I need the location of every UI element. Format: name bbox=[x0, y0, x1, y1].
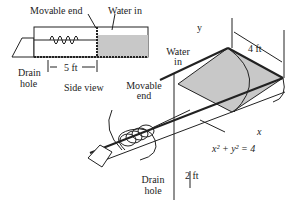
circle-equation: x² + y² = 4 bbox=[212, 143, 255, 154]
x-axis-label: x bbox=[257, 126, 261, 137]
side-length-label: 5 ft bbox=[64, 62, 78, 73]
drain-label-2: hole bbox=[138, 185, 168, 196]
water-in-label-2: in bbox=[166, 56, 190, 67]
width-label: 4 ft bbox=[248, 43, 262, 54]
depth-label: 2 ft bbox=[185, 170, 199, 181]
side-view bbox=[12, 14, 148, 72]
trough-diagram: Movable end Water in Drain hole 5 ft Sid… bbox=[0, 0, 298, 206]
side-movable-end-label: Movable end bbox=[30, 5, 83, 16]
y-axis-label: y bbox=[197, 22, 202, 33]
movable-end-label-2: end bbox=[126, 90, 162, 101]
side-hole-label: hole bbox=[20, 78, 37, 89]
side-water-in-label: Water in bbox=[108, 5, 142, 16]
side-view-caption: Side view bbox=[64, 82, 104, 93]
side-drain-label: Drain bbox=[18, 67, 41, 78]
drain-label-1: Drain bbox=[138, 174, 168, 185]
